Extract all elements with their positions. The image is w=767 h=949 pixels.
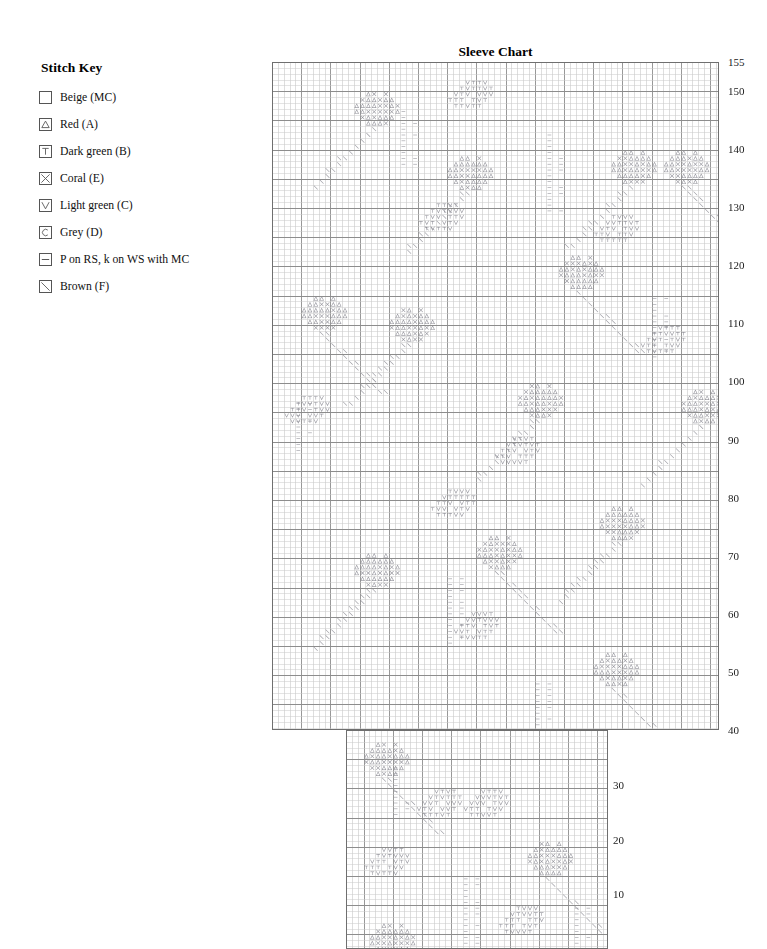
- chart-title: Sleeve Chart: [272, 44, 719, 60]
- row-number-label: 130: [728, 202, 745, 212]
- row-number-label: 20: [613, 835, 624, 845]
- row-number-label: 50: [728, 667, 739, 677]
- row-number-label: 30: [613, 780, 624, 790]
- row-number-label: 60: [728, 609, 739, 619]
- chart-area: Sleeve Chart 155150140130120110100908070…: [0, 0, 767, 949]
- chart-grid-lower-section: [346, 730, 608, 949]
- row-number-label: 150: [728, 86, 745, 96]
- grid-border-lower: [346, 730, 608, 949]
- grid-border-upper: [272, 62, 719, 730]
- row-number-label: 10: [613, 889, 624, 899]
- row-number-label: 155: [728, 57, 745, 67]
- row-number-label: 120: [728, 260, 745, 270]
- row-number-label: 110: [728, 318, 744, 328]
- chart-grid-upper-section: [272, 62, 719, 730]
- row-number-label: 100: [728, 376, 745, 386]
- row-number-label: 140: [728, 144, 745, 154]
- row-number-label: 40: [728, 725, 739, 735]
- row-number-label: 70: [728, 551, 739, 561]
- row-number-label: 80: [728, 493, 739, 503]
- row-number-label: 90: [728, 435, 739, 445]
